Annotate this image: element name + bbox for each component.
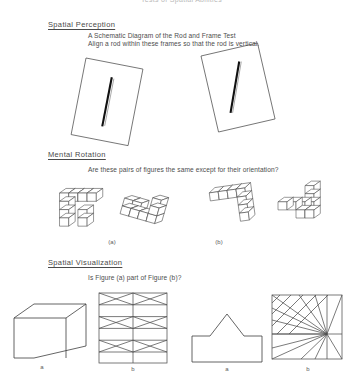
mental-rotation-a-figure-2: [120, 186, 169, 225]
figure-truss-grid: [98, 292, 168, 364]
spatial-perception-line-2: Align a rod within these frames so that …: [88, 40, 259, 49]
rod-frame-left: [71, 58, 143, 146]
section-heading-spatial-perception: Spatial Perception: [48, 20, 115, 29]
rod-frame-right: [201, 43, 275, 132]
rod-and-frame-figures: [56, 52, 306, 144]
section-heading-mental-rotation: Mental Rotation: [48, 150, 106, 159]
mental-rotation-a-figure-1: [60, 188, 103, 226]
mental-rotation-figures: [50, 180, 350, 238]
spatial-visualization-line-1: Is Figure (a) part of Figure (b)?: [88, 274, 181, 283]
figure-box-solid: [12, 300, 90, 362]
mental-rotation-b-figure-2: [278, 181, 320, 218]
figure-house-polygon: [190, 310, 264, 364]
mental-rotation-label-b: (b): [205, 239, 233, 245]
mental-rotation-line-1: Are these pairs of figures the same exce…: [88, 166, 279, 175]
mental-rotation-label-a: (a): [98, 239, 126, 245]
document-page: Tests of Spatial Abilities Spatial Perce…: [0, 0, 363, 378]
figure-label-b-1: b: [113, 366, 153, 372]
mental-rotation-b-figure-1: [209, 183, 256, 225]
figure-label-b-2: b: [288, 366, 328, 372]
document-title: Tests of Spatial Abilities: [0, 0, 363, 4]
section-heading-spatial-visualization: Spatial Visualization: [48, 258, 122, 267]
figure-diagonal-square: [271, 294, 343, 360]
figure-label-a-1: a: [22, 364, 62, 370]
figure-label-a-2: a: [207, 366, 247, 372]
